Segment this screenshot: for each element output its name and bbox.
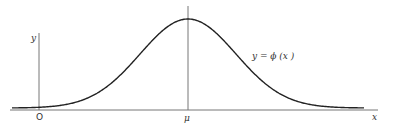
curve-equation-label: y = ϕ (x ) xyxy=(252,51,294,61)
origin-label: O xyxy=(36,112,43,122)
mean-label: μ xyxy=(184,113,190,123)
x-axis-label: x xyxy=(372,112,377,122)
normal-curve-diagram xyxy=(0,0,393,132)
y-axis-label: y xyxy=(31,33,36,43)
